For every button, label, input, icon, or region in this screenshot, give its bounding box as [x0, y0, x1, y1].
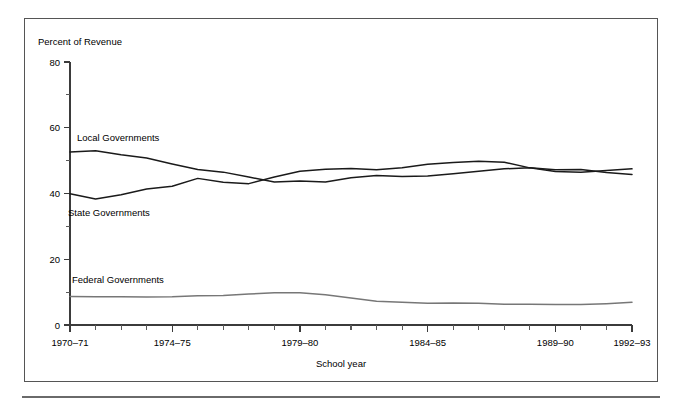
- y-tick-label: 40: [49, 188, 60, 199]
- y-tick-label: 20: [49, 254, 60, 265]
- x-tick-label-group: 1970–711974–751979–801984–851989–901992–…: [52, 337, 651, 348]
- series-label-federal-governments: Federal Governments: [72, 274, 164, 285]
- figure-container: Percent of Revenue 020406080 1970–711974…: [0, 0, 682, 410]
- y-tick-group: [64, 62, 70, 325]
- y-tick-label-group: 020406080: [49, 57, 60, 331]
- x-axis-group: 1970–711974–751979–801984–851989–901992–…: [52, 325, 651, 348]
- y-tick-label: 60: [49, 122, 60, 133]
- line-chart-svg: Percent of Revenue 020406080 1970–711974…: [0, 0, 682, 410]
- y-tick-label: 0: [55, 320, 60, 331]
- x-tick-label: 1992–93: [614, 337, 651, 348]
- x-axis-caption: School year: [316, 358, 366, 369]
- series-line-local-governments: [70, 151, 632, 182]
- x-tick-label: 1989–90: [537, 337, 574, 348]
- x-tick-label: 1974–75: [154, 337, 191, 348]
- x-tick-label: 1984–85: [409, 337, 446, 348]
- x-tick-group: [70, 325, 632, 332]
- chart-unit-title: Percent of Revenue: [38, 36, 122, 47]
- series-line-state-governments: [70, 161, 632, 199]
- x-tick-label: 1979–80: [281, 337, 318, 348]
- series-line-federal-governments: [70, 293, 632, 305]
- y-tick-label: 80: [49, 57, 60, 68]
- series-label-state-governments: State Governments: [68, 207, 150, 218]
- y-axis-group: 020406080: [49, 57, 70, 331]
- series-label-local-governments: Local Governments: [77, 132, 160, 143]
- x-tick-label: 1970–71: [52, 337, 89, 348]
